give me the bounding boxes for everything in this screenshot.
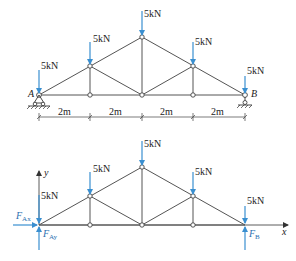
y-axis-label: y [43,167,49,178]
truss-members [39,37,245,95]
load-label: 5kN [93,163,110,174]
load-label: 5kN [247,195,264,206]
load-label: 5kN [195,166,212,177]
top-truss: 5kN 5kN 5kN 5kN 5kN A B 2m 2m 2m 2m [27,8,264,121]
load-label: 5kN [195,36,212,47]
dimension-label: 2m [211,106,224,117]
reaction-fay-label: FAy [42,228,58,241]
truss-members [39,167,245,225]
truss-diagram: 5kN 5kN 5kN 5kN 5kN A B 2m 2m 2m 2m x [0,0,296,261]
dimension-label: 2m [160,106,173,117]
dimension-label: 2m [58,106,71,117]
load-label: 5kN [247,65,264,76]
load-label: 5kN [41,190,58,201]
x-axis-label: x [281,226,287,237]
load-label: 5kN [144,8,161,19]
reaction-fb-label: FB [248,228,260,241]
support-b-label: B [251,88,257,99]
reaction-fax-label: FAx [15,210,31,223]
load-label: 5kN [144,138,161,149]
load-label: 5kN [93,33,110,44]
support-a-label: A [27,88,35,99]
dimension-label: 2m [109,106,122,117]
bottom-fbd: x y 5kN 5kN 5k [13,138,288,250]
load-label: 5kN [41,60,58,71]
